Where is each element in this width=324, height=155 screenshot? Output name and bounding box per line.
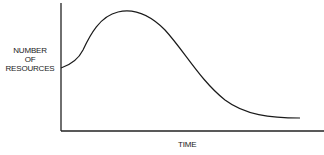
chart-canvas (0, 0, 324, 155)
y-axis-label-line1: NUMBER (0, 46, 60, 55)
y-axis-label-line2: OF (0, 55, 60, 64)
x-axis-label: TIME (178, 140, 196, 149)
y-axis-label-line3: RESOURCES (0, 64, 60, 73)
resource-curve (61, 11, 300, 118)
y-axis-label: NUMBER OF RESOURCES (0, 46, 60, 73)
